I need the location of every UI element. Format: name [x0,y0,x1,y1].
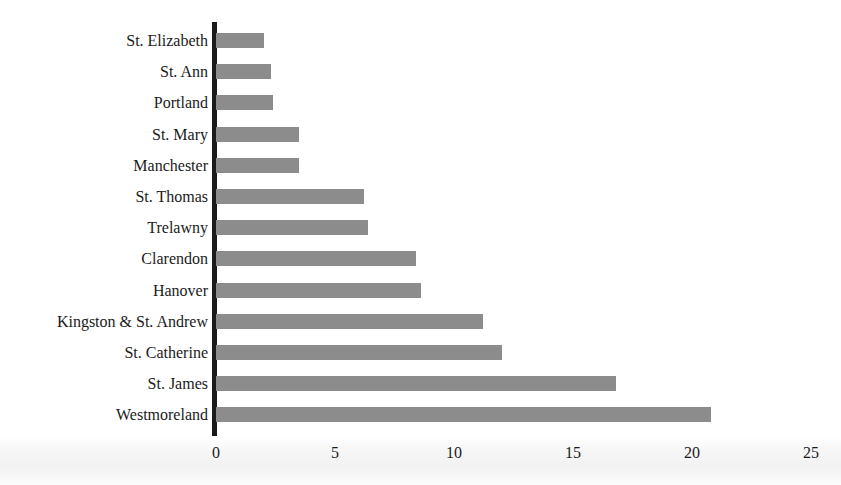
category-label: Trelawny [0,212,208,243]
bar [216,64,271,79]
x-tick-label: 5 [305,444,365,462]
bar [216,345,502,360]
bar [216,283,421,298]
bar-row: Hanover [0,275,841,306]
x-tick-label: 20 [662,444,722,462]
bar-row: Manchester [0,150,841,181]
category-label: Manchester [0,150,208,181]
x-tick-label: 25 [781,444,841,462]
bar [216,251,416,266]
bar-row: St. Catherine [0,337,841,368]
category-label: St. Elizabeth [0,25,208,56]
category-label: Westmoreland [0,399,208,430]
bar-row: St. Elizabeth [0,25,841,56]
bar [216,33,264,48]
category-label: St. Thomas [0,181,208,212]
bar-row: Kingston & St. Andrew [0,306,841,337]
x-tick-label: 0 [186,444,246,462]
bar [216,189,364,204]
bar-row: Clarendon [0,243,841,274]
bar-row: Portland [0,87,841,118]
category-label: St. Mary [0,119,208,150]
category-label: St. Ann [0,56,208,87]
category-label: Clarendon [0,243,208,274]
category-label: St. James [0,368,208,399]
bar-row: St. James [0,368,841,399]
bar [216,376,616,391]
bar [216,407,711,422]
bar [216,220,368,235]
bar-row: St. Thomas [0,181,841,212]
bar-row: St. Ann [0,56,841,87]
x-tick-label: 15 [543,444,603,462]
bar-chart: St. ElizabethSt. AnnPortlandSt. MaryManc… [0,0,841,485]
bar [216,127,299,142]
category-label: St. Catherine [0,337,208,368]
bar [216,158,299,173]
plot-area: St. ElizabethSt. AnnPortlandSt. MaryManc… [0,0,841,485]
bar-row: Westmoreland [0,399,841,430]
category-label: Kingston & St. Andrew [0,306,208,337]
bar [216,95,273,110]
bar [216,314,483,329]
category-label: Portland [0,87,208,118]
x-tick-label: 10 [424,444,484,462]
bar-row: Trelawny [0,212,841,243]
category-label: Hanover [0,275,208,306]
bar-row: St. Mary [0,119,841,150]
